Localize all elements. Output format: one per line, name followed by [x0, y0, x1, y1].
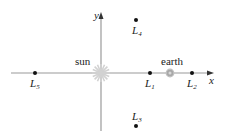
x-axis-label: x: [208, 74, 214, 86]
lagrange-diagram: y x sun earth L1 L2 L3 L4 L5: [0, 0, 227, 139]
l1-label: L1: [144, 77, 155, 91]
l4-label: L4: [131, 24, 142, 38]
l5-label: L5: [29, 77, 40, 91]
sun-icon: [92, 64, 110, 82]
earth-icon: [166, 69, 174, 77]
l5-point: [33, 71, 37, 75]
l2-point: [190, 71, 194, 75]
l3-label: L3: [131, 110, 142, 124]
y-axis-arrow-icon: [99, 12, 104, 19]
y-axis-label: y: [93, 9, 99, 21]
l3-point: [134, 124, 138, 128]
l4-point: [134, 18, 138, 22]
l2-label: L2: [186, 77, 197, 91]
earth-label: earth: [161, 55, 183, 67]
sun-label: sun: [75, 55, 91, 67]
l1-point: [148, 71, 152, 75]
